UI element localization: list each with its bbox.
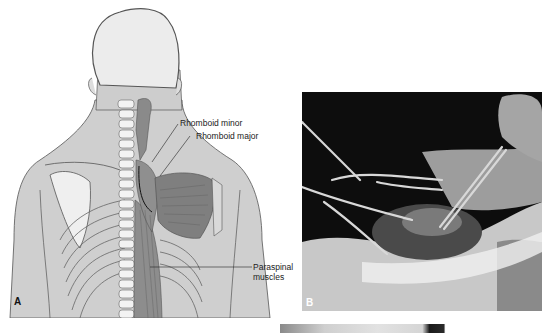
surgical-photo-illustration (302, 92, 542, 311)
back-anatomy-illustration (0, 0, 280, 318)
panel-letter-b: B (306, 297, 313, 308)
panel-c-photo-partial (280, 324, 458, 333)
panel-letter-a: A (14, 296, 21, 307)
panel-b-photo: B (302, 92, 542, 311)
label-rhomboid-major: Rhomboid major (196, 131, 258, 141)
label-paraspinal-line1: Paraspinal (253, 262, 293, 272)
label-paraspinal-line2: muscles (253, 272, 284, 282)
label-rhomboid-minor: Rhomboid minor (180, 118, 242, 128)
panel-a-illustration: Rhomboid minor Rhomboid major Paraspinal… (0, 0, 280, 318)
